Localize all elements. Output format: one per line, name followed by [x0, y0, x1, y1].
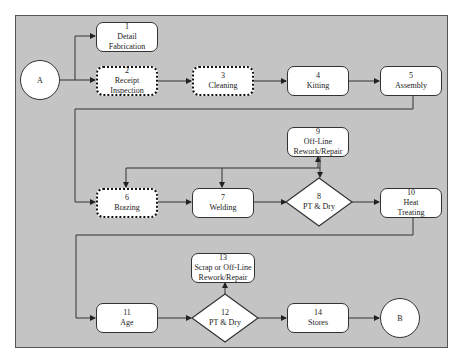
node-label: Rework/Repair: [199, 273, 248, 283]
node-14-stores: 14 Stores: [287, 303, 349, 333]
node-number: 8: [317, 192, 321, 202]
node-label: PT & Dry: [303, 202, 335, 212]
node-number: 6: [125, 193, 129, 203]
node-4-kitting: 4 Kitting: [287, 66, 349, 96]
node-3-cleaning: 3 Cleaning: [192, 66, 254, 96]
node-number: 14: [314, 308, 322, 318]
node-label: Assembly: [395, 81, 427, 91]
node-number: 10: [407, 188, 415, 198]
connector-a-label: A: [37, 76, 43, 85]
node-1-detail-fabrication: 1 Detail Fabrication: [96, 22, 158, 52]
node-number: 11: [123, 308, 131, 318]
node-11-age: 11 Age: [96, 303, 158, 333]
node-label: Welding: [210, 203, 237, 213]
node-number: 3: [221, 71, 225, 81]
node-label: Heat: [403, 198, 418, 208]
node-13-scrap-or-offline-rework: 13 Scrap or Off-Line Rework/Repair: [191, 253, 255, 283]
node-label: Receipt: [115, 76, 139, 86]
node-2-receipt-inspection: 2 Receipt Inspection: [96, 66, 158, 96]
node-label: Cleaning: [209, 81, 238, 91]
node-number: 5: [409, 71, 413, 81]
node-label: Treating: [398, 208, 425, 218]
node-12-pt-dry: 12 PT & Dry: [195, 306, 255, 330]
node-7-welding: 7 Welding: [192, 188, 254, 218]
connector-b-label: B: [397, 314, 402, 323]
node-label: Scrap or Off-Line: [194, 263, 251, 273]
node-6-brazing: 6 Brazing: [96, 188, 158, 218]
node-label: Kitting: [307, 81, 330, 91]
node-number: 7: [221, 193, 225, 203]
node-label: Detail: [117, 32, 137, 42]
node-9-offline-rework-repair: 9 Off-Line Rework/Repair: [287, 127, 349, 157]
node-number: 12: [221, 308, 229, 318]
node-5-assembly: 5 Assembly: [380, 66, 442, 96]
node-label: Inspection: [110, 86, 143, 96]
node-label: PT & Dry: [209, 318, 241, 328]
node-number: 9: [316, 127, 320, 137]
node-8-pt-dry: 8 PT & Dry: [289, 190, 349, 214]
connector-a: A: [20, 60, 60, 100]
node-label: Stores: [308, 318, 328, 328]
node-10-heat-treating: 10 Heat Treating: [380, 188, 442, 218]
node-label: Off-Line: [304, 137, 332, 147]
node-label: Rework/Repair: [294, 147, 343, 157]
node-number: 2: [125, 66, 129, 76]
node-label: Brazing: [114, 203, 139, 213]
node-label: Fabrication: [109, 42, 145, 52]
node-label: Age: [120, 318, 133, 328]
connector-b: B: [380, 298, 420, 338]
node-number: 13: [219, 253, 227, 263]
node-number: 1: [125, 22, 129, 32]
node-number: 4: [316, 71, 320, 81]
